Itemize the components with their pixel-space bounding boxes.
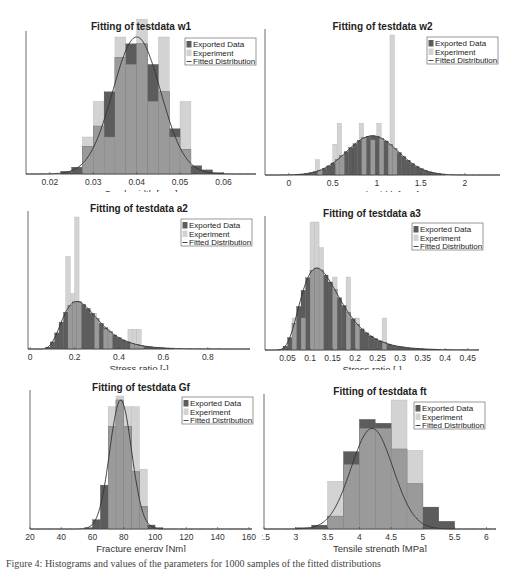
exported-bar [90, 313, 94, 349]
exported-bar [366, 136, 370, 175]
x-tick-label: 0.2 [349, 353, 361, 363]
legend: Exported DataExperimentFitted Distributi… [181, 219, 252, 247]
legend: Exported DataExperimentFitted Distributi… [412, 223, 483, 251]
chart-panel-a3: 0.050.10.150.20.250.30.350.40.45Fitting … [262, 192, 521, 370]
x-tick-label: 3 [293, 532, 298, 542]
chart-Gf: 20406080100120140160Fitting of testdata … [0, 370, 262, 552]
exported-bar [410, 164, 414, 175]
exported-bar [401, 156, 405, 175]
x-tick-label: 3.5 [322, 532, 334, 542]
exported-bar [112, 335, 116, 349]
exported-bar [306, 278, 311, 350]
chart-panel-a2: 00.20.40.60.8Fitting of testdata a2Stres… [0, 192, 262, 370]
exported-bar [397, 152, 401, 175]
x-tick-label: 6 [484, 532, 489, 542]
exported-bar [81, 304, 85, 349]
overlap-bar [343, 465, 359, 530]
chart-w1: 0.020.030.040.050.06Fitting of testdata … [0, 0, 262, 192]
legend: Exported DataExperimentFitted Distributi… [414, 402, 485, 430]
legend-swatch-experiment [414, 235, 419, 242]
x-tick-label: 0.6 [158, 352, 170, 362]
exported-bar [55, 333, 59, 349]
x-tick-label: 5 [421, 532, 426, 542]
legend-label-fitted: Fitted Distribution [435, 56, 497, 65]
exported-bar [331, 163, 335, 175]
exported-bar [373, 339, 378, 350]
x-tick-label: 0.15 [324, 353, 341, 363]
chart-panel-w1: 0.020.030.040.050.06Fitting of testdata … [0, 0, 262, 192]
exported-bar [324, 275, 329, 350]
legend: Exported DataExperimentFitted Distributi… [185, 38, 256, 66]
overlap-bar [169, 137, 180, 174]
chart-title: Fitting of testdata Gf [92, 382, 190, 393]
x-tick-label: 140 [211, 532, 225, 542]
x-tick-label: 0.06 [215, 177, 232, 187]
overlap-bar [375, 428, 391, 529]
exported-bar [406, 160, 410, 175]
overlap-bar [340, 156, 344, 175]
exported-bar [93, 520, 101, 529]
x-tick-label: 0.1 [304, 353, 316, 363]
x-tick-label: 0.3 [394, 353, 406, 363]
x-tick-label: 1 [374, 178, 379, 188]
x-axis-label: Tensile strength [MPa] [333, 543, 427, 552]
exported-bar [50, 342, 54, 349]
x-tick-label: 2 [462, 178, 467, 188]
legend-swatch-exported [183, 222, 188, 229]
exported-bar [439, 521, 455, 529]
legend-label-fitted: Fitted Distribution [422, 421, 484, 430]
overlap-bar [115, 58, 126, 174]
legend-label-fitted: Fitted Distribution [193, 57, 255, 66]
overlap-bar [95, 318, 99, 349]
chart-title: Fitting of testdata a3 [323, 208, 421, 219]
overlap-bar [93, 126, 104, 174]
chart-title: Fitting of testdata a2 [90, 203, 188, 214]
exported-bar [99, 323, 103, 349]
x-tick-label: 0.4 [113, 352, 125, 362]
chart-panel-Gf: 20406080100120140160Fitting of testdata … [0, 370, 262, 552]
x-axis-label: Stress ratio [-] [109, 363, 168, 370]
exported-bar [364, 333, 369, 350]
x-tick-label: 0 [28, 352, 33, 362]
overlap-bar [137, 44, 148, 174]
overlap-bar [126, 64, 137, 174]
exported-bar [349, 148, 353, 175]
x-tick-label: 0.05 [279, 353, 296, 363]
x-tick-label: 0.35 [414, 353, 431, 363]
overlap-bar [328, 516, 344, 529]
overlap-bar [362, 138, 366, 175]
exported-bar [86, 308, 90, 349]
overlap-bar [359, 428, 375, 529]
x-axis-label: Fracture energy [Nm] [96, 543, 186, 552]
legend-label-fitted: Fitted Distribution [190, 416, 252, 425]
overlap-bar [346, 313, 351, 350]
legend-swatch-experiment [183, 231, 188, 238]
x-tick-label: 20 [25, 532, 35, 542]
overlap-bar [371, 140, 375, 175]
exported-bar [342, 306, 347, 350]
legend-swatch-exported [184, 400, 189, 407]
overlap-bar [116, 400, 124, 529]
overlap-bar [139, 506, 147, 529]
legend-swatch-experiment [416, 414, 421, 421]
exported-bar [353, 144, 357, 175]
overlap-bar [108, 332, 112, 349]
figure-caption: Figure 4: Histograms and values of the p… [6, 558, 381, 569]
overlap-bar [310, 270, 315, 350]
chart-title: Fitting of testdata ft [333, 386, 427, 397]
x-tick-label: 160 [242, 532, 256, 542]
exported-bar [375, 136, 379, 175]
exported-bar [351, 319, 356, 350]
legend-swatch-experiment [187, 50, 192, 57]
x-tick-label: 0.2 [69, 352, 81, 362]
overlap-bar [315, 268, 320, 350]
legend-swatch-exported [416, 405, 421, 412]
exported-bar [147, 525, 155, 529]
exported-bar [126, 342, 130, 349]
x-tick-label: 0.04 [128, 177, 145, 187]
x-tick-label: 80 [119, 532, 129, 542]
exported-bar [288, 338, 293, 350]
chart-panel-ft: 2.533.544.555.56Fitting of testdata ftTe… [262, 370, 521, 552]
overlap-bar [333, 290, 338, 350]
chart-a3: 0.050.10.150.20.250.30.350.40.45Fitting … [262, 192, 521, 370]
